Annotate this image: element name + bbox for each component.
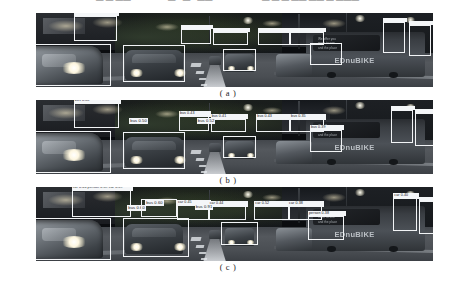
headlight-glow bbox=[227, 66, 236, 71]
cut-text-fragment: — — — —— —— — ——— bbox=[262, 0, 359, 4]
detection-label: person 0.38 bbox=[308, 211, 346, 217]
panel-a: We offer you more to see and the placeED… bbox=[36, 13, 433, 87]
lane-dash bbox=[195, 71, 204, 74]
shop-window-glow bbox=[48, 107, 84, 119]
shop-window-glow bbox=[322, 193, 346, 202]
headlight-glow bbox=[246, 153, 255, 158]
headlight-glow bbox=[173, 243, 187, 251]
lane-dash bbox=[198, 78, 205, 80]
lane-dash bbox=[201, 171, 207, 173]
detection-label: car 0.44 bbox=[209, 201, 249, 207]
background-trees bbox=[115, 13, 282, 53]
shop-window-glow bbox=[92, 17, 124, 27]
shop-window-glow bbox=[155, 23, 179, 30]
street-scene-image: We offer you more to see and the placeED… bbox=[36, 13, 433, 87]
detection-label: bus 0.35 bbox=[290, 114, 326, 120]
car-distant bbox=[209, 56, 222, 65]
streetlight-glow bbox=[354, 15, 367, 22]
detection-label-bar bbox=[383, 18, 407, 22]
van-vehicle bbox=[276, 228, 312, 250]
detection-label: car 0.40 bbox=[393, 193, 419, 199]
street-scene-image: We offer you more to see and the placeED… bbox=[36, 100, 433, 174]
detection-label: car 0.66 person 0.39 car 0.59 bbox=[72, 187, 134, 191]
detection-label-bar bbox=[258, 28, 292, 32]
headlight-glow bbox=[227, 240, 236, 245]
headlight-glow bbox=[60, 62, 88, 74]
detection-label: bus 0.43 bbox=[256, 114, 292, 120]
bus-vehicle: We offer you more to see and the placeED… bbox=[306, 32, 425, 78]
lane-dash bbox=[201, 258, 207, 260]
headlight-glow bbox=[60, 236, 88, 248]
detection-label-bar bbox=[391, 106, 415, 110]
van-vehicle bbox=[276, 141, 312, 163]
detection-label: bus 0.41 bbox=[211, 114, 249, 120]
cut-text-fragment: — — —— bbox=[96, 0, 131, 4]
street-scene-image: We offer you more to see and the placeED… bbox=[36, 187, 433, 261]
panel-caption-panel-c: ( c ) bbox=[0, 262, 456, 272]
streetlight-glow bbox=[354, 189, 367, 196]
lane-dash bbox=[195, 158, 204, 161]
shop-window-glow bbox=[262, 20, 282, 27]
lane-dash bbox=[201, 84, 207, 86]
lane-dash bbox=[195, 245, 204, 248]
detection-label-bar bbox=[290, 28, 326, 32]
detection-label: bus 0.43 bbox=[179, 111, 211, 117]
headlight-glow bbox=[246, 240, 255, 245]
headlight-glow bbox=[173, 69, 187, 77]
detection-label: bus 0.50 bbox=[129, 118, 148, 124]
detection-label-bar bbox=[181, 25, 213, 29]
van-vehicle bbox=[276, 54, 312, 76]
detection-label: bus 0.38 bbox=[74, 100, 122, 104]
lane-dash bbox=[198, 165, 205, 167]
panel-b: We offer you more to see and the placeED… bbox=[36, 100, 433, 174]
detection-label-bar bbox=[415, 109, 433, 113]
detection-label-bar bbox=[213, 28, 251, 32]
shop-window-glow bbox=[92, 104, 124, 114]
lane-dash bbox=[190, 63, 201, 67]
lane-dash bbox=[190, 150, 201, 154]
panel-c: We offer you more to see and the placeED… bbox=[36, 187, 433, 261]
cut-text-fragment: — • — • —— bbox=[168, 0, 213, 4]
headlight-glow bbox=[227, 153, 236, 158]
panel-caption-panel-a: ( a ) bbox=[0, 88, 456, 98]
shop-window-glow bbox=[92, 191, 124, 201]
panel-caption-panel-b: ( b ) bbox=[0, 175, 456, 185]
streetlight-glow bbox=[354, 102, 367, 109]
shop-window-glow bbox=[322, 19, 346, 28]
lane-dash bbox=[190, 237, 201, 241]
cut-off-text-line: — — ——— • — • ——— — — —— —— — ——— bbox=[0, 0, 456, 8]
headlight-glow bbox=[60, 149, 88, 161]
bus-advert-text: We offer you more to see and the place bbox=[318, 37, 370, 49]
detection-label: bus 0.60 bbox=[145, 200, 164, 206]
shop-window-glow bbox=[48, 20, 84, 32]
headlight-glow bbox=[129, 69, 143, 77]
shop-window-glow bbox=[155, 110, 179, 117]
headlight-glow bbox=[129, 156, 143, 164]
figure-detection-comparison: We offer you more to see and the placeED… bbox=[0, 9, 456, 287]
detection-label-bar bbox=[419, 197, 433, 201]
detection-label: bus 0.91 bbox=[195, 204, 214, 210]
car-distant bbox=[209, 143, 222, 152]
lane-dash bbox=[198, 252, 205, 254]
detection-label: bus 0.39 bbox=[310, 125, 344, 131]
headlight-glow bbox=[246, 66, 255, 71]
headlight-glow bbox=[129, 243, 143, 251]
car-distant bbox=[209, 230, 222, 239]
detection-label: bus 0.52 bbox=[197, 118, 216, 124]
bus-brand-text: EDnuBIKE bbox=[335, 56, 375, 65]
headlight-glow bbox=[173, 156, 187, 164]
detection-label-bar bbox=[409, 21, 433, 25]
detection-label: car 0.52 bbox=[254, 201, 292, 207]
shop-window-glow bbox=[48, 194, 84, 206]
street-pole bbox=[209, 16, 210, 46]
detection-label: car 0.38 bbox=[288, 201, 324, 207]
bus-brand-text: EDnuBIKE bbox=[335, 230, 375, 239]
detection-label-bar bbox=[74, 13, 120, 16]
detection-label: bus 0.60 bbox=[127, 205, 146, 211]
bus-brand-text: EDnuBIKE bbox=[335, 143, 375, 152]
